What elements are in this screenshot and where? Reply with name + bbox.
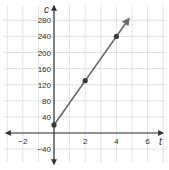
- data-point: [114, 34, 119, 39]
- y-tick-label: −40: [37, 145, 51, 154]
- x-tick-label: 6: [145, 137, 150, 146]
- x-tick-label: 4: [114, 137, 119, 146]
- y-tick-label: 160: [38, 65, 52, 74]
- data-point: [83, 78, 88, 83]
- y-tick-label: 80: [42, 97, 51, 106]
- line-chart: −2246−404080120160200240280 t c: [0, 0, 169, 170]
- y-tick-label: 200: [38, 49, 52, 58]
- y-axis-label: c: [44, 4, 49, 15]
- y-tick-label: 40: [42, 113, 51, 122]
- x-axis-label: t: [159, 136, 163, 147]
- data-series: [51, 19, 128, 128]
- x-tick-label: −2: [18, 137, 28, 146]
- y-tick-label: 120: [38, 81, 52, 90]
- x-tick-label: 2: [83, 137, 88, 146]
- y-tick-label: 280: [38, 16, 52, 25]
- y-tick-label: 240: [38, 32, 52, 41]
- data-point: [51, 122, 56, 127]
